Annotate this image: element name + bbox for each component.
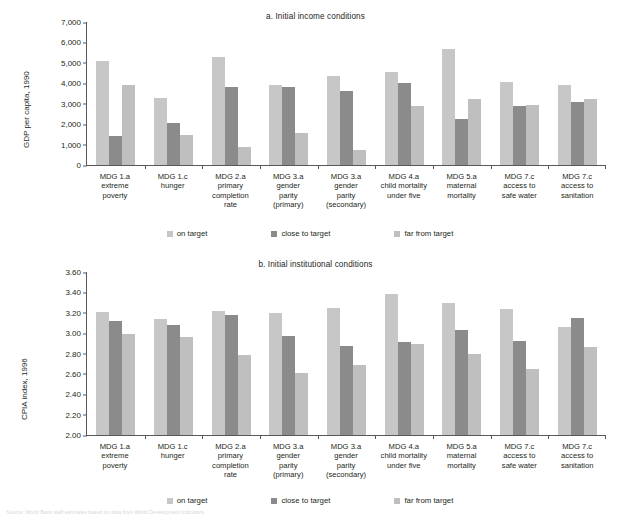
y-axis-label-b: CPIA index, 1996 [20,358,29,420]
y-tick-b-8: 3.60 [65,268,87,277]
x-axis-label: MDG 7.caccess tosafe water [490,172,548,210]
bar-group [260,272,318,435]
bar-close [109,321,122,435]
bar-on [154,98,167,165]
x-tick [605,435,606,439]
bar-on [500,82,513,165]
bar-close [340,346,353,435]
bar-far [180,337,193,435]
bar-far [584,99,597,165]
x-tick [491,435,492,439]
x-tick [202,435,203,439]
y-tick-b-2: 2.40 [65,390,87,399]
legend-b: on targetclose to targetfar from target [60,496,560,505]
bar-far [468,354,481,436]
bar-group [87,22,145,165]
x-tick [433,435,434,439]
y-axis-label-a: GDP per capita, 1990 [22,71,31,148]
y-tick-a-7: 7,000 [61,18,87,27]
x-tick [375,435,376,439]
bar-group [433,22,491,165]
bar-far [353,150,366,165]
x-axis-label: MDG 2.aprimarycompletionrate [202,172,260,210]
legend-item-close: close to target [271,496,330,505]
x-tick [318,435,319,439]
chart-title-b: b. Initial institutional conditions [0,260,631,269]
bar-group [548,272,606,435]
bar-far [411,344,424,435]
x-axis-label: MDG 1.aextremepoverty [86,172,144,210]
bar-group [202,22,260,165]
legend-a: on targetclose to targetfar from target [60,229,560,238]
bar-close [398,342,411,435]
x-axis-label: MDG 4.achild mortalityunder five [375,442,433,480]
bar-group [375,272,433,435]
bar-close [109,136,122,165]
x-tick [375,165,376,169]
bar-close [513,106,526,165]
bar-close [225,87,238,165]
x-tick [491,165,492,169]
x-axis-label: MDG 5.amaternalmortality [433,442,491,480]
chart-panel-a: a. Initial income conditions GDP per cap… [0,0,631,250]
legend-label: close to target [281,496,330,505]
bar-far [353,365,366,435]
bar-on [96,312,109,435]
legend-item-far: far from target [394,229,453,238]
bar-far [526,105,539,165]
bar-group [433,272,491,435]
x-axis-label: MDG 7.caccess tosafe water [490,442,548,480]
bar-far [411,106,424,165]
chart-panel-b: b. Initial institutional conditions CPIA… [0,250,631,502]
bar-on [385,294,398,435]
bar-on [327,76,340,165]
chart-title-a: a. Initial income conditions [0,12,631,21]
legend-label: on target [177,496,208,505]
bar-far [526,369,539,435]
x-tick [548,165,549,169]
bar-far [238,355,251,435]
x-axis-label: MDG 3.agenderparity(secondary) [317,172,375,210]
legend-swatch-on-icon [167,498,173,504]
bar-group [202,272,260,435]
x-tick [145,435,146,439]
bar-group [318,22,376,165]
bar-far [295,133,308,165]
x-axis-label: MDG 7.caccess tosanitation [548,442,606,480]
legend-item-on: on target [167,496,208,505]
bar-on [500,309,513,435]
bar-group [318,272,376,435]
y-tick-b-1: 2.20 [65,410,87,419]
y-tick-a-3: 3,000 [61,99,87,108]
bar-group [375,22,433,165]
x-axis-label: MDG 2.aprimarycompletionrate [202,442,260,480]
y-tick-a-5: 5,000 [61,58,87,67]
figure-page: { "source_note": "Source: World Bank sta… [0,0,631,518]
bar-group [491,22,549,165]
bar-groups-a [87,22,606,165]
bar-on [269,313,282,435]
bar-group [145,272,203,435]
legend-swatch-far-icon [394,231,400,237]
bar-far [468,99,481,165]
bar-far [238,147,251,165]
legend-swatch-far-icon [394,498,400,504]
bar-close [571,102,584,165]
y-tick-b-4: 2.80 [65,349,87,358]
source-note: Source: World Bank staff estimates based… [6,509,205,515]
bar-on [269,85,282,165]
y-tick-a-4: 4,000 [61,79,87,88]
legend-swatch-on-icon [167,231,173,237]
y-tick-b-7: 3.40 [65,288,87,297]
bar-close [282,87,295,165]
bar-on [442,49,455,165]
x-tick [260,165,261,169]
x-tick [318,165,319,169]
plot-area-a: 01,0002,0003,0004,0005,0006,0007,000 [86,22,606,166]
bar-group [491,272,549,435]
x-tick [145,165,146,169]
bar-on [154,319,167,435]
legend-swatch-close-icon [271,231,277,237]
x-axis-label: MDG 7.caccess tosanitation [548,172,606,210]
y-tick-b-5: 3.00 [65,329,87,338]
